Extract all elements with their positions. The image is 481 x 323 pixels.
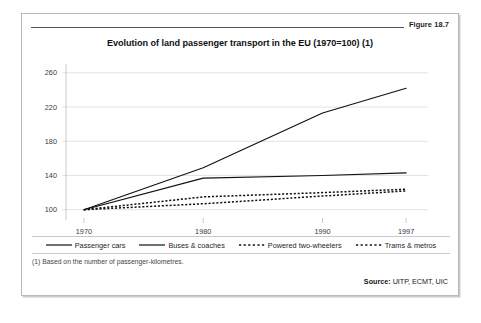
y-tick-label: 260 bbox=[45, 68, 57, 77]
line-chart: 100140180220260 1970198019901997 bbox=[22, 58, 458, 244]
x-tick-label: 1990 bbox=[314, 227, 330, 236]
figure-footnote: (1) Based on the number of passenger-kil… bbox=[32, 258, 184, 265]
figure-source-text: UITP, ECMT, UIC bbox=[393, 277, 448, 286]
legend-swatch-passenger-cars-icon bbox=[46, 241, 72, 249]
legend-label: Passenger cars bbox=[75, 241, 126, 250]
legend-label: Trams & metros bbox=[385, 241, 437, 250]
page-title: Evolution of land passenger transport in… bbox=[31, 38, 449, 48]
y-tick-label: 100 bbox=[45, 205, 57, 214]
series-trams-metros bbox=[84, 191, 406, 210]
chart-x-axis-ticks: 1970198019901997 bbox=[76, 227, 414, 236]
chart-y-axis-ticks: 100140180220260 bbox=[45, 68, 57, 214]
legend-item-passenger-cars[interactable]: Passenger cars bbox=[39, 241, 133, 250]
legend-label: Buses & coaches bbox=[168, 241, 224, 250]
legend-item-powered-two-wheelers[interactable]: Powered two-wheelers bbox=[232, 241, 349, 250]
legend-label: Powered two-wheelers bbox=[268, 241, 342, 250]
y-tick-label: 180 bbox=[45, 137, 57, 146]
chart-series-group bbox=[84, 88, 406, 209]
figure-header: Figure 18.7 bbox=[22, 14, 458, 36]
legend-swatch-powered-two-wheelers-icon bbox=[239, 241, 265, 249]
legend-item-trams-metros[interactable]: Trams & metros bbox=[349, 241, 444, 250]
y-tick-label: 140 bbox=[45, 171, 57, 180]
figure-card: Figure 18.7 Evolution of land passenger … bbox=[21, 13, 459, 296]
legend-item-buses-coaches[interactable]: Buses & coaches bbox=[132, 241, 231, 250]
x-tick-label: 1980 bbox=[195, 227, 211, 236]
chart-plot-area: 100140180220260 1970198019901997 bbox=[22, 58, 458, 244]
chart-gridlines bbox=[62, 64, 428, 223]
x-tick-label: 1970 bbox=[76, 227, 92, 236]
legend-swatch-trams-metros-icon bbox=[356, 241, 382, 249]
x-tick-label: 1997 bbox=[398, 227, 414, 236]
y-tick-label: 220 bbox=[45, 103, 57, 112]
figure-source: Source: UITP, ECMT, UIC bbox=[364, 277, 448, 286]
chart-legend: Passenger carsBuses & coachesPowered two… bbox=[32, 236, 450, 254]
figure-number: Figure 18.7 bbox=[404, 20, 449, 29]
figure-header-rule bbox=[31, 27, 449, 28]
figure-source-prefix: Source: bbox=[364, 277, 391, 286]
legend-swatch-buses-coaches-icon bbox=[139, 241, 165, 249]
